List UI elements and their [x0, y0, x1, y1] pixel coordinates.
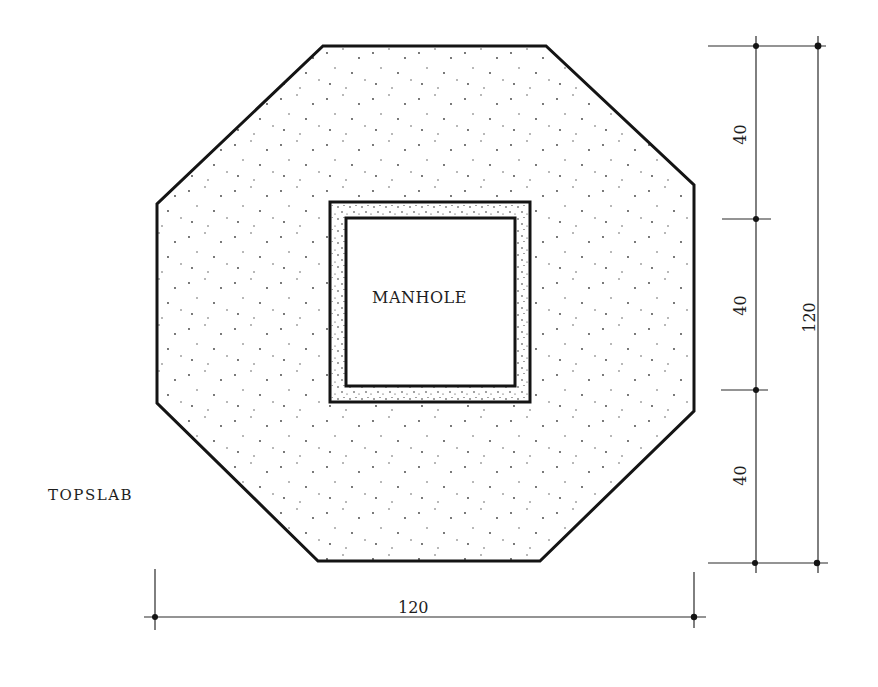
vertical-total-dimension-label: 120 [800, 302, 819, 333]
horizontal-dimension-label: 120 [398, 598, 429, 617]
vertical-dimension-label-bottom: 40 [731, 465, 750, 485]
vertical-dimension-label-middle: 40 [731, 295, 750, 315]
manhole-label: MANHOLE [372, 288, 467, 307]
topslab-plan-drawing [0, 0, 878, 687]
topslab-label: TOPSLAB [48, 486, 133, 504]
vertical-dimension-label-top: 40 [731, 124, 750, 144]
